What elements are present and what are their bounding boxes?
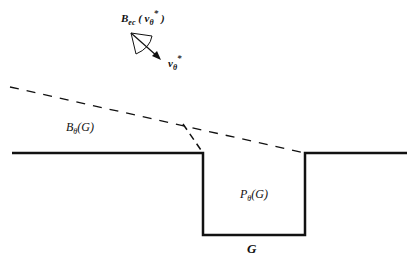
gap-label: G	[247, 242, 256, 255]
dashed-trajectory-line	[10, 87, 305, 153]
velocity-arrow-icon	[131, 33, 161, 60]
ballistic-region-label: Bθ(G)	[66, 121, 94, 133]
surface-profile	[12, 153, 407, 235]
diagram-canvas	[0, 0, 417, 261]
cone-label: Bec ( vθ* )	[121, 13, 165, 24]
velocity-label: vθ*	[168, 58, 182, 69]
pit-region-label: Pθ(G)	[240, 188, 268, 200]
